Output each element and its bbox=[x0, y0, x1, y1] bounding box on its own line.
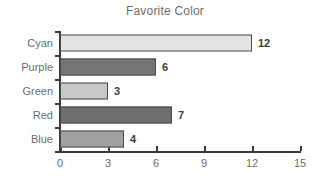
bar-row: Cyan12 bbox=[60, 31, 300, 55]
category-label-red: Red bbox=[33, 109, 53, 121]
x-tick-label: 6 bbox=[153, 157, 159, 169]
chart-title: Favorite Color bbox=[0, 4, 330, 18]
x-tick-label: 15 bbox=[294, 157, 306, 169]
x-axis-line bbox=[59, 151, 301, 153]
plot-area: Cyan12Purple6Green3Red7Blue4 bbox=[60, 31, 300, 151]
bar-purple bbox=[60, 59, 156, 76]
bar-green bbox=[60, 83, 108, 100]
category-label-green: Green bbox=[22, 85, 53, 97]
category-label-purple: Purple bbox=[21, 61, 53, 73]
bar-value-purple: 6 bbox=[162, 61, 168, 73]
x-tick bbox=[300, 146, 302, 151]
x-tick-label: 12 bbox=[246, 157, 258, 169]
x-tick-label: 9 bbox=[201, 157, 207, 169]
bar-chart: Favorite Color 03691215 Cyan12Purple6Gre… bbox=[0, 0, 330, 180]
bar-value-red: 7 bbox=[178, 109, 184, 121]
bar-row: Green3 bbox=[60, 79, 300, 103]
x-tick-label: 3 bbox=[105, 157, 111, 169]
bar-red bbox=[60, 107, 172, 124]
bar-cyan bbox=[60, 35, 252, 52]
bar-row: Blue4 bbox=[60, 127, 300, 151]
bar-value-blue: 4 bbox=[130, 133, 136, 145]
y-tick bbox=[55, 151, 60, 153]
bar-row: Red7 bbox=[60, 103, 300, 127]
bar-blue bbox=[60, 131, 124, 148]
category-label-blue: Blue bbox=[31, 133, 53, 145]
category-label-cyan: Cyan bbox=[27, 37, 53, 49]
x-tick-label: 0 bbox=[57, 157, 63, 169]
bar-row: Purple6 bbox=[60, 55, 300, 79]
bar-value-green: 3 bbox=[114, 85, 120, 97]
bar-value-cyan: 12 bbox=[258, 37, 270, 49]
